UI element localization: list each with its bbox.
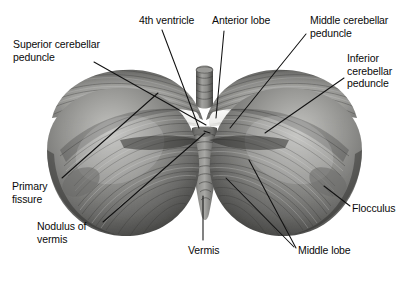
label-flocculus: Flocculus xyxy=(352,202,395,215)
leader-superior-cerebellar-peduncle xyxy=(94,62,206,125)
label-line: peduncle xyxy=(13,51,100,64)
leader-inferior-cerebellar-peduncle xyxy=(265,78,344,133)
leader-flocculus xyxy=(324,186,350,206)
label-line: peduncle xyxy=(310,27,388,40)
label-line: Primary xyxy=(12,180,47,193)
label-line: Flocculus xyxy=(352,202,395,215)
label-line: fissure xyxy=(12,193,47,206)
label-line: cerebellar xyxy=(347,65,392,78)
label-line: Anterior lobe xyxy=(212,14,270,27)
label-line: Nodulus of xyxy=(37,220,86,233)
label-line: vermis xyxy=(37,233,86,246)
label-anterior-lobe: Anterior lobe xyxy=(212,14,270,27)
label-line: 4th ventricle xyxy=(139,14,194,27)
label-line: Superior cerebellar xyxy=(13,38,100,51)
label-middle-cerebellar-peduncle: Middle cerebellarpeduncle xyxy=(310,14,388,39)
leader-anterior-lobe xyxy=(216,31,224,118)
label-line: peduncle xyxy=(347,77,392,90)
leader-middle-cerebellar-peduncle xyxy=(230,34,306,128)
leader-middle-lobe-a xyxy=(226,178,294,247)
leader-nodulus-of-vermis xyxy=(103,133,205,222)
label-primary-fissure: Primaryfissure xyxy=(12,180,47,205)
label-inferior-cerebellar-peduncle: Inferiorcerebellarpeduncle xyxy=(347,52,392,90)
label-line: Inferior xyxy=(347,52,392,65)
label-fourth-ventricle: 4th ventricle xyxy=(139,14,194,27)
label-vermis: Vermis xyxy=(188,244,220,257)
label-nodulus-of-vermis: Nodulus ofvermis xyxy=(37,220,86,245)
label-line: Middle lobe xyxy=(298,244,351,257)
cerebellum-figure: Superior cerebellarpeduncle4th ventricle… xyxy=(0,0,409,282)
leader-primary-fissure xyxy=(62,93,158,178)
leader-middle-lobe-b xyxy=(249,160,296,248)
label-middle-lobe: Middle lobe xyxy=(298,244,351,257)
label-superior-cerebellar-peduncle: Superior cerebellarpeduncle xyxy=(13,38,100,63)
label-line: Middle cerebellar xyxy=(310,14,388,27)
leader-fourth-ventricle xyxy=(162,30,199,128)
label-line: Vermis xyxy=(188,244,220,257)
